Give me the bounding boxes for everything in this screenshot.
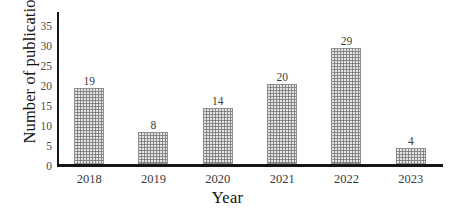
bar-group: 192018 <box>57 12 121 164</box>
bar-group: 202021 <box>250 12 314 164</box>
y-tick-label: 30 <box>28 40 52 52</box>
y-tick-label: 25 <box>28 60 52 72</box>
bar-value-label: 29 <box>341 35 353 47</box>
x-tick-label: 2023 <box>398 172 423 187</box>
bar-value-label: 14 <box>212 95 224 107</box>
bar-group: 42023 <box>379 12 443 164</box>
bar-group: 142020 <box>186 12 250 164</box>
bar: 8 <box>138 132 168 164</box>
x-tick-label: 2018 <box>77 172 102 187</box>
x-tick-label: 2021 <box>270 172 295 187</box>
x-tick-label: 2022 <box>334 172 359 187</box>
bar-value-label: 19 <box>83 75 95 87</box>
bar: 20 <box>267 84 297 164</box>
x-tick-label: 2019 <box>141 172 166 187</box>
y-tick-label: 35 <box>28 20 52 32</box>
bar: 19 <box>74 88 104 164</box>
bar: 29 <box>331 48 361 164</box>
y-tick-label: 0 <box>28 160 52 172</box>
y-tick-label: 5 <box>28 140 52 152</box>
bar: 14 <box>203 108 233 164</box>
bar: 4 <box>396 148 426 164</box>
x-axis-title: Year <box>0 188 455 208</box>
x-tick-label: 2020 <box>205 172 230 187</box>
x-axis-line <box>57 164 443 167</box>
plot-area: 05101520253035 1920188201914202020202129… <box>57 12 443 166</box>
bar-group: 82019 <box>121 12 185 164</box>
y-tick-label: 15 <box>28 100 52 112</box>
bar-value-label: 4 <box>408 135 414 147</box>
y-tick-label: 10 <box>28 120 52 132</box>
bar-value-label: 20 <box>276 71 288 83</box>
y-tick-label: 20 <box>28 80 52 92</box>
bar-group: 292022 <box>314 12 378 164</box>
bar-value-label: 8 <box>151 119 157 131</box>
bar-chart-figure: Number of publications 05101520253035 19… <box>0 0 455 211</box>
